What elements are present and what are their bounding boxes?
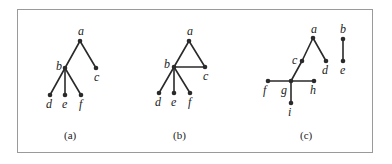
edge-a-b — [174, 41, 189, 67]
vertex-label-c: c — [94, 70, 100, 84]
vertex-label-a: a — [311, 22, 317, 36]
edge-a-c — [189, 41, 205, 67]
edge-a-c — [80, 41, 96, 68]
vertex-label-f: f — [263, 83, 268, 97]
graph-figure: abcdef abcdef abcdefghi (a) (b) (c) — [0, 0, 392, 164]
vertex-b — [341, 37, 346, 42]
vertex-a — [78, 39, 83, 44]
vertex-label-e: e — [171, 95, 177, 109]
vertex-label-b: b — [340, 22, 346, 36]
vertex-label-g: g — [281, 83, 287, 97]
vertex-label-c: c — [292, 53, 298, 67]
edge-b-f — [174, 67, 190, 93]
vertex-label-f: f — [188, 95, 193, 109]
vertex-label-b: b — [164, 57, 170, 71]
panel-a: abcdef — [46, 24, 100, 111]
vertex-label-e: e — [62, 97, 68, 111]
vertex-label-c: c — [203, 69, 209, 83]
vertex-a — [311, 36, 316, 41]
vertex-label-h: h — [310, 83, 316, 97]
vertex-f — [266, 79, 271, 84]
caption-c: (c) — [300, 129, 313, 142]
vertex-label-d: d — [46, 97, 53, 111]
edge-a-b — [65, 41, 80, 68]
caption-b: (b) — [173, 129, 186, 142]
vertex-b — [63, 66, 68, 71]
edge-b-f — [65, 68, 81, 95]
caption-a: (a) — [64, 129, 77, 142]
panel-b: abcdef — [155, 24, 209, 109]
vertex-label-e: e — [340, 63, 346, 77]
edge-a-c — [302, 38, 313, 61]
vertex-label-a: a — [78, 24, 84, 38]
edge-a-d — [313, 38, 326, 61]
vertex-b — [172, 65, 177, 70]
vertex-a — [187, 39, 192, 44]
vertex-label-i: i — [288, 105, 291, 119]
vertex-g — [289, 79, 294, 84]
panel-c: abcdefghi — [263, 22, 346, 119]
vertex-label-b: b — [56, 59, 62, 73]
vertex-label-a: a — [187, 24, 193, 38]
vertex-label-d: d — [322, 63, 329, 77]
vertex-label-f: f — [79, 97, 84, 111]
vertex-label-d: d — [155, 95, 162, 109]
vertex-c — [300, 59, 305, 64]
